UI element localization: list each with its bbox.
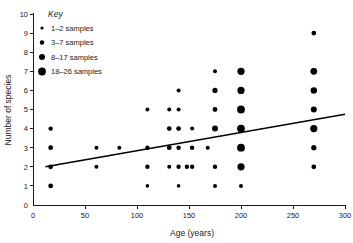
trend-line [45, 114, 345, 167]
data-point [213, 165, 217, 169]
data-point [177, 108, 181, 112]
data-point [237, 106, 245, 114]
x-tick-label: 150 [183, 211, 196, 220]
legend-marker-1 [40, 26, 43, 29]
data-point [176, 126, 181, 131]
data-point [177, 88, 181, 92]
legend-label-3: 8–17 samples [51, 53, 98, 62]
x-axis-title: Age (years) [170, 228, 214, 238]
legend-title: Key [48, 9, 63, 19]
data-point [167, 165, 171, 169]
legend-label-4: 18–26 samples [51, 67, 102, 76]
y-axis: 012345678910 [20, 10, 33, 210]
data-point [167, 108, 171, 112]
y-tick-label: 10 [20, 10, 28, 19]
data-point [190, 127, 194, 131]
data-point [94, 146, 98, 150]
y-axis-title: Number of species [3, 75, 13, 146]
data-point [310, 68, 317, 75]
data-point [48, 126, 52, 130]
y-tick-label: 7 [24, 67, 28, 76]
x-tick-label: 50 [81, 211, 89, 220]
data-point [190, 146, 194, 150]
legend-marker-2 [40, 40, 44, 44]
data-point [48, 145, 53, 150]
legend-marker-4 [38, 68, 46, 76]
data-point [177, 184, 181, 188]
data-point [237, 68, 244, 75]
data-point [237, 163, 244, 170]
x-tick-label: 200 [235, 211, 248, 220]
data-point [48, 184, 53, 189]
data-point [176, 146, 180, 150]
data-point [117, 146, 121, 150]
chart-canvas: 012345678910 050100150200250300 Age (yea… [0, 0, 353, 243]
data-point [311, 145, 316, 150]
data-point [311, 31, 316, 36]
legend: Key 1–2 samples3–7 samples8–17 samples18… [38, 9, 102, 76]
data-point [146, 184, 150, 188]
legend-label-2: 3–7 samples [51, 38, 94, 47]
scatter-plot-figure: 012345678910 050100150200250300 Age (yea… [0, 0, 353, 243]
data-point [176, 165, 180, 169]
legend-label-1: 1–2 samples [51, 24, 94, 33]
y-tick-label: 4 [24, 124, 28, 133]
y-tick-label: 2 [24, 163, 28, 172]
x-tick-label: 0 [31, 211, 35, 220]
x-tick-label: 300 [339, 211, 352, 220]
data-point [167, 126, 172, 131]
data-point [94, 165, 98, 169]
x-tick-label: 100 [131, 211, 144, 220]
data-point [311, 107, 317, 113]
legend-marker-3 [39, 54, 45, 60]
y-tick-label: 6 [24, 86, 28, 95]
data-point [237, 144, 245, 152]
data-point [239, 184, 243, 188]
x-tick-label: 250 [287, 211, 300, 220]
data-point [213, 69, 217, 73]
y-tick-label: 1 [24, 182, 28, 191]
data-point [206, 146, 210, 150]
data-point [237, 87, 244, 94]
y-tick-label: 3 [24, 144, 28, 153]
data-point [311, 87, 317, 93]
y-tick-label: 0 [24, 201, 28, 210]
data-point [310, 125, 317, 132]
data-point [212, 126, 218, 132]
data-point [190, 165, 194, 169]
data-point [145, 165, 149, 169]
data-point [145, 108, 149, 112]
y-tick-label: 8 [24, 48, 28, 57]
data-point [185, 165, 189, 169]
x-axis: 050100150200250300 [31, 205, 351, 220]
data-point [311, 164, 316, 169]
data-point [212, 88, 217, 93]
data-point [213, 184, 217, 188]
y-tick-label: 9 [24, 29, 28, 38]
data-point [213, 107, 218, 112]
y-tick-label: 5 [24, 105, 28, 114]
